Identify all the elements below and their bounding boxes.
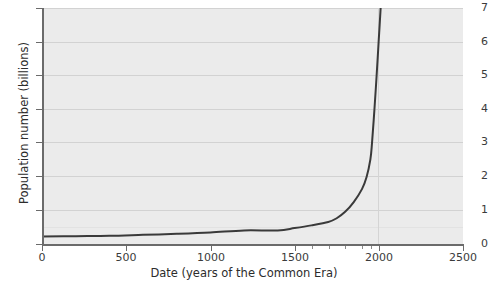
x-ticklabel-1000: 1000 — [181, 252, 241, 263]
y-tick-1 — [36, 210, 42, 211]
population-curve — [42, 8, 463, 245]
x-axis-label: Date (years of the Common Era) — [0, 266, 488, 280]
y-tick-4 — [36, 109, 42, 110]
y-ticklabel-4: 4 — [460, 103, 488, 114]
y-ticklabel-1: 1 — [460, 204, 488, 215]
y-ticklabel-6: 6 — [460, 36, 488, 47]
y-tick-0 — [36, 244, 42, 245]
x-ticklabel-500: 500 — [96, 252, 156, 263]
y-axis-spine — [42, 8, 44, 246]
y-tick-7 — [36, 8, 42, 9]
y-ticklabel-3: 3 — [460, 136, 488, 147]
x-minortick-1900 — [362, 246, 363, 249]
x-minortick-1600 — [312, 246, 313, 249]
y-tick-3 — [36, 142, 42, 143]
y-ticklabel-2: 2 — [460, 170, 488, 181]
y-tick-6 — [36, 42, 42, 43]
y-tick-5 — [36, 75, 42, 76]
y-tick-2 — [36, 176, 42, 177]
x-axis-spine — [42, 244, 464, 246]
plot-area — [42, 8, 463, 245]
x-minortick-1800 — [345, 246, 346, 249]
x-ticklabel-2500: 2500 — [433, 252, 493, 263]
y-ticklabel-7: 7 — [460, 2, 488, 13]
x-ticklabel-0: 0 — [12, 252, 72, 263]
x-minortick-1950 — [371, 246, 372, 249]
y-axis-label: Population number (billions) — [17, 33, 31, 213]
x-ticklabel-2000: 2000 — [349, 252, 409, 263]
x-ticklabel-1500: 1500 — [265, 252, 325, 263]
x-minortick-1700 — [329, 246, 330, 249]
y-ticklabel-5: 5 — [460, 69, 488, 80]
y-ticklabel-0: 0 — [460, 238, 488, 249]
